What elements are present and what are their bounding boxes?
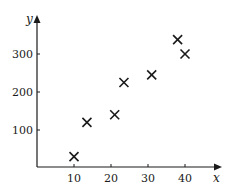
y-tick-label: 200 bbox=[12, 86, 33, 99]
x-axis-label: x bbox=[213, 171, 220, 185]
ticks: 10203040100200300 bbox=[12, 48, 192, 185]
axes bbox=[34, 15, 223, 171]
cross-marker-icon bbox=[110, 110, 119, 119]
cross-marker-icon bbox=[70, 152, 79, 161]
cross-marker-icon bbox=[119, 78, 128, 87]
y-tick-label: 100 bbox=[12, 124, 33, 137]
y-axis-label: y bbox=[25, 12, 33, 26]
cross-marker-icon bbox=[82, 118, 91, 127]
x-tick-label: 30 bbox=[141, 172, 155, 185]
data-points bbox=[70, 35, 190, 161]
y-tick-label: 300 bbox=[12, 48, 33, 61]
scatter-chart: 10203040100200300 x y bbox=[0, 0, 228, 193]
x-tick-label: 10 bbox=[67, 172, 81, 185]
cross-marker-icon bbox=[147, 70, 156, 79]
cross-marker-icon bbox=[173, 35, 182, 44]
cross-marker-icon bbox=[181, 50, 190, 59]
x-axis-arrow-icon bbox=[214, 164, 222, 171]
y-axis-arrow-icon bbox=[34, 15, 41, 23]
x-tick-label: 40 bbox=[178, 172, 192, 185]
x-tick-label: 20 bbox=[104, 172, 118, 185]
